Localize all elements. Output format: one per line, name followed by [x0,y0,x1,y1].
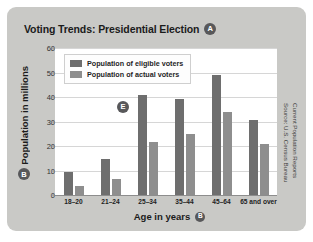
x-axis-tick-label: 25–34 [138,198,156,205]
y-axis-tick-mark [51,48,55,49]
callout-marker-e: E [117,101,129,113]
source-line-1: Source: U.S. Census Bureau [282,103,291,203]
bar [112,179,121,195]
bar [101,159,110,195]
legend-item-actual: Population of actual voters [70,70,183,79]
x-axis-tick-label: 21–24 [101,198,119,205]
gridline [55,97,277,98]
y-axis-label-group: Population in millions B [16,47,32,199]
source-line-2: Current Population Reports [291,103,300,203]
legend-label-eligible: Population of eligible voters [87,59,183,68]
y-axis-tick-mark [51,97,55,98]
y-axis-tick-mark [51,72,55,73]
chart-title-row: Voting Trends: Presidential Election A [24,23,216,35]
x-axis-line [55,195,277,196]
callout-marker-b-yaxis: B [18,168,30,180]
x-axis-tick-label: 65 and over [240,198,277,205]
bar [138,95,147,195]
x-axis-tick-label: 35–44 [175,198,193,205]
x-axis-label-group: Age in years B [7,211,306,222]
bar [149,142,158,195]
legend-label-actual: Population of actual voters [87,70,179,79]
bar [186,134,195,195]
y-axis-tick-mark [51,195,55,196]
bar [223,112,232,195]
y-axis-tick-mark [51,121,55,122]
y-axis-label: Population in millions [19,66,30,165]
bar [260,144,269,195]
gridline [55,146,277,147]
bar [75,186,84,195]
page-title: Voting Trends: Presidential Election [24,23,199,35]
gridline [55,48,277,49]
y-axis-tick-mark [51,146,55,147]
bar [212,75,221,195]
bar [249,120,258,195]
x-axis-tick-label: 45–64 [212,198,230,205]
x-axis-tick-label: 18–20 [64,198,82,205]
gridline [55,171,277,172]
bar [175,99,184,195]
bar [64,172,73,195]
bar-group [212,48,232,195]
x-axis-label: Age in years [134,211,191,222]
y-axis-tick-mark [51,170,55,171]
legend-swatch-eligible [70,60,82,67]
callout-marker-a: A [204,23,216,35]
legend-swatch-actual [70,71,82,78]
bar-group [249,48,269,195]
gridline [55,122,277,123]
chart-legend: Population of eligible voters Population… [64,54,191,84]
legend-item-eligible: Population of eligible voters [70,59,183,68]
source-note: Source: U.S. Census Bureau Current Popul… [282,103,302,203]
callout-marker-b-xaxis: B [195,212,205,222]
chart-figure: Voting Trends: Presidential Election A P… [7,7,306,231]
